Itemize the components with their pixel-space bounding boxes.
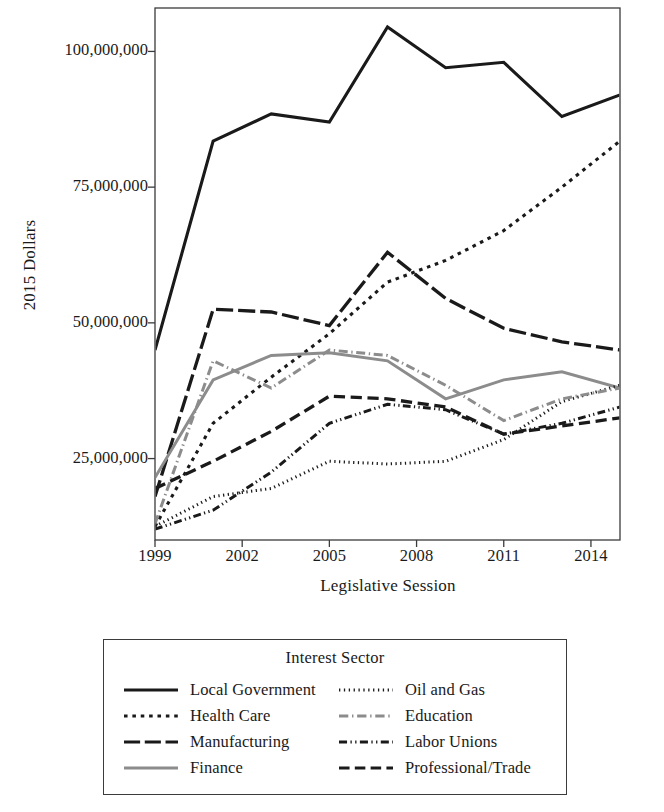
series-line-finance: [155, 353, 620, 478]
x-tick-label: 2008: [400, 546, 433, 566]
legend-item[interactable]: Professional/Trade: [337, 755, 552, 781]
legend-swatch-solid: [122, 761, 180, 775]
legend-label: Labor Unions: [405, 732, 497, 752]
legend-label: Oil and Gas: [405, 680, 485, 700]
series-line-labor-unions: [155, 404, 620, 529]
legend-label: Education: [405, 706, 473, 726]
legend-item[interactable]: Labor Unions: [337, 729, 552, 755]
legend-swatch-dotted-fine: [337, 683, 395, 697]
series-group: [155, 27, 620, 529]
legend-label: Professional/Trade: [405, 758, 531, 778]
legend-item[interactable]: Education: [337, 703, 552, 729]
legend-swatch-dash-dot: [337, 709, 395, 723]
x-tick-label: 2005: [313, 546, 346, 566]
series-line-professional-trade: [155, 396, 620, 488]
x-tick-label: 1999: [138, 546, 171, 566]
legend-swatch-dash-solid: [122, 735, 180, 749]
legend-item[interactable]: Local Government: [122, 677, 337, 703]
legend-items: Local GovernmentOil and GasHealth CareEd…: [104, 677, 566, 781]
x-tick-label: 2011: [487, 546, 520, 566]
legend-title: Interest Sector: [104, 648, 566, 668]
series-line-health-care: [155, 141, 620, 526]
legend-label: Local Government: [190, 680, 316, 700]
legend-label: Finance: [190, 758, 243, 778]
legend-item[interactable]: Finance: [122, 755, 337, 781]
legend: Interest Sector Local GovernmentOil and …: [103, 639, 567, 795]
x-tick-label: 2002: [225, 546, 258, 566]
legend-label: Health Care: [190, 706, 270, 726]
legend-label: Manufacturing: [190, 732, 289, 752]
x-axis-title: Legislative Session: [155, 576, 621, 596]
legend-swatch-dotted-square: [122, 709, 180, 723]
legend-item[interactable]: Oil and Gas: [337, 677, 552, 703]
x-tick-label: 2014: [574, 546, 607, 566]
legend-swatch-solid: [122, 683, 180, 697]
legend-item[interactable]: Health Care: [122, 703, 337, 729]
series-line-local-government: [155, 27, 620, 350]
legend-swatch-long-dash: [337, 761, 395, 775]
legend-swatch-dash-dot-dot: [337, 735, 395, 749]
chart-figure: 2015 Dollars 25,000,00050,000,00075,000,…: [0, 0, 664, 812]
legend-item[interactable]: Manufacturing: [122, 729, 337, 755]
x-axis-tick-labels: 199920022005200820112014: [0, 546, 664, 574]
plot-frame: [155, 8, 620, 540]
